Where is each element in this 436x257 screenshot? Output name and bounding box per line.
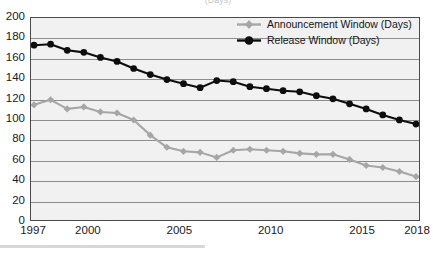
- legend-label-release: Release Window (Days): [267, 35, 380, 46]
- y-tick-40: 40: [12, 174, 25, 186]
- data-point-announcement-window-19: [346, 156, 353, 163]
- y-axis-tick-labels: 020406080100120140160180200: [0, 17, 28, 221]
- y-tick-200: 200: [6, 11, 25, 23]
- data-point-announcement-window-4: [97, 108, 104, 115]
- data-point-release-window-23: [413, 121, 419, 128]
- series-release-window: [31, 41, 419, 128]
- diamond-marker-icon: [236, 19, 262, 30]
- series-announcement-window: [31, 96, 419, 180]
- data-point-release-window-16: [296, 88, 303, 95]
- x-tick-1997: 1997: [20, 224, 46, 236]
- data-point-announcement-window-15: [280, 148, 287, 155]
- y-tick-180: 180: [6, 31, 25, 43]
- y-tick-20: 20: [12, 195, 25, 207]
- data-point-release-window-6: [130, 65, 137, 72]
- data-point-release-window-13: [246, 83, 253, 90]
- data-point-release-window-12: [230, 78, 237, 85]
- data-point-announcement-window-13: [246, 146, 253, 153]
- data-point-release-window-19: [346, 100, 353, 107]
- x-tick-2010: 2010: [258, 224, 284, 236]
- data-point-release-window-18: [330, 95, 337, 102]
- chart-legend: Announcement Window (Days) Release Windo…: [236, 19, 412, 46]
- data-point-announcement-window-9: [180, 148, 187, 155]
- data-point-release-window-9: [180, 80, 187, 87]
- page-title-text: (Days): [0, 0, 436, 5]
- legend-label-announcement: Announcement Window (Days): [267, 19, 412, 30]
- data-point-announcement-window-21: [379, 164, 386, 171]
- x-tick-2015: 2015: [349, 224, 375, 236]
- data-point-release-window-15: [280, 87, 287, 94]
- data-point-announcement-window-0: [31, 101, 38, 108]
- chart-screenshot: (Days) 020406080100120140160180200 19972…: [0, 0, 436, 257]
- data-point-release-window-3: [80, 49, 87, 56]
- data-point-announcement-window-3: [80, 103, 87, 110]
- data-point-announcement-window-20: [363, 162, 370, 169]
- data-point-release-window-22: [396, 117, 403, 124]
- data-point-announcement-window-11: [213, 154, 220, 161]
- data-point-release-window-11: [213, 77, 220, 84]
- y-tick-140: 140: [6, 72, 25, 84]
- series-line-release-window: [34, 44, 416, 124]
- data-point-announcement-window-22: [396, 168, 403, 175]
- data-point-announcement-window-5: [113, 109, 120, 116]
- data-point-announcement-window-16: [296, 150, 303, 157]
- data-point-announcement-window-18: [329, 151, 336, 158]
- data-point-release-window-1: [47, 41, 54, 48]
- data-point-release-window-5: [114, 58, 121, 65]
- data-point-announcement-window-12: [230, 147, 237, 154]
- data-point-release-window-20: [363, 106, 370, 113]
- data-point-release-window-14: [263, 85, 270, 92]
- y-tick-100: 100: [6, 113, 25, 125]
- y-tick-80: 80: [12, 133, 25, 145]
- series-line-announcement-window: [34, 100, 416, 177]
- data-point-release-window-2: [64, 47, 71, 54]
- data-point-release-window-7: [147, 71, 154, 78]
- page-edge-artifact: [0, 245, 205, 248]
- data-point-release-window-17: [313, 92, 320, 99]
- data-point-release-window-10: [197, 84, 204, 91]
- data-point-announcement-window-23: [412, 173, 419, 180]
- data-point-release-window-8: [164, 76, 171, 83]
- legend-item-release: Release Window (Days): [236, 35, 412, 46]
- legend-item-announcement: Announcement Window (Days): [236, 19, 412, 30]
- data-point-announcement-window-17: [313, 151, 320, 158]
- data-point-release-window-4: [97, 54, 104, 61]
- data-series-layer: [31, 18, 419, 220]
- data-point-announcement-window-14: [263, 147, 270, 154]
- circle-marker-icon: [236, 35, 262, 46]
- data-point-release-window-0: [31, 42, 37, 49]
- y-tick-120: 120: [6, 93, 25, 105]
- y-tick-60: 60: [12, 154, 25, 166]
- x-tick-2018: 2018: [404, 224, 430, 236]
- data-point-release-window-21: [379, 112, 386, 119]
- chart-title-cropped: (Days): [0, 0, 436, 9]
- data-point-announcement-window-10: [197, 149, 204, 156]
- y-tick-160: 160: [6, 52, 25, 64]
- x-tick-2000: 2000: [75, 224, 101, 236]
- x-tick-2005: 2005: [167, 224, 193, 236]
- x-axis-tick-labels: 199720002005201020152018: [0, 224, 436, 244]
- plot-area: [30, 17, 420, 221]
